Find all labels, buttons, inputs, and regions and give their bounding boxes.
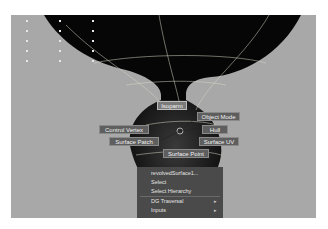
marking-item-surface-uv[interactable]: Surface UV xyxy=(199,137,239,146)
3d-viewport[interactable]: Isoparm Object Mode Control Vertex Hull … xyxy=(11,15,316,218)
marking-item-object-mode[interactable]: Object Mode xyxy=(197,112,240,121)
menu-item-revolved-surface[interactable]: revolvedSurface1... xyxy=(137,169,223,178)
menu-item-select[interactable]: Select xyxy=(137,178,223,187)
menu-item-select-hierarchy[interactable]: Select Hierarchy xyxy=(137,187,223,196)
menu-item-label: revolvedSurface1... xyxy=(151,170,198,176)
marking-item-surface-patch[interactable]: Surface Patch xyxy=(109,137,159,146)
menu-item-label: Select Hierarchy xyxy=(151,188,191,194)
submenu-arrow-icon: ▸ xyxy=(214,206,217,215)
menu-item-label: Select xyxy=(151,179,166,185)
marking-item-hull[interactable]: Hull xyxy=(202,125,228,134)
menu-item-dg-traversal[interactable]: DG Traversal ▸ xyxy=(137,197,223,206)
menu-item-inputs[interactable]: Inputs ▸ xyxy=(137,206,223,215)
marking-item-isoparm[interactable]: Isoparm xyxy=(157,101,187,110)
marking-item-surface-point[interactable]: Surface Point xyxy=(163,149,209,158)
submenu-arrow-icon: ▸ xyxy=(214,197,217,206)
context-menu: revolvedSurface1... Select Select Hierar… xyxy=(137,167,223,218)
menu-item-label: DG Traversal xyxy=(151,198,183,204)
marking-item-control-vertex[interactable]: Control Vertex xyxy=(99,125,149,134)
menu-item-label: Inputs xyxy=(151,207,166,213)
